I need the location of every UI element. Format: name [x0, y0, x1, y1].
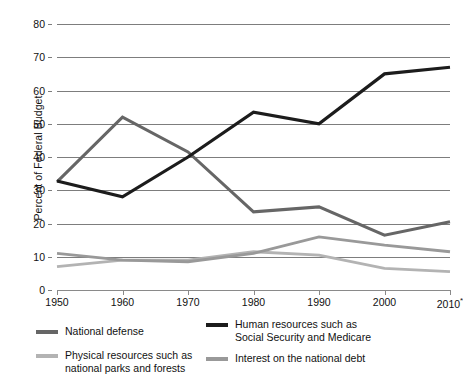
x-tick-mark-2010 — [450, 290, 451, 295]
y-tick-mark-50 — [48, 124, 52, 125]
x-tick-label-1990: 1990 — [307, 296, 330, 308]
y-tick-label-80: 80 — [33, 18, 45, 30]
series-line-0 — [57, 117, 450, 235]
y-tick-label-0: 0 — [39, 284, 45, 296]
y-tick-label-70: 70 — [33, 51, 45, 63]
y-tick-label-30: 30 — [33, 184, 45, 196]
y-tick-label-50: 50 — [33, 118, 45, 130]
legend-swatch-1 — [206, 323, 228, 327]
y-tick-mark-30 — [48, 190, 52, 191]
x-tick-label-1980: 1980 — [242, 296, 265, 308]
series-line-3 — [57, 237, 450, 262]
legend-label-1: Human resources such as Social Security … — [235, 318, 371, 343]
series-line-1 — [57, 67, 450, 197]
x-tick-label-1970: 1970 — [176, 296, 199, 308]
x-tick-mark-2000 — [385, 290, 386, 295]
chart-legend: National defenseHuman resources such as … — [36, 322, 456, 376]
x-tick-mark-1950 — [57, 290, 58, 295]
legend-entry-0: National defense — [36, 325, 144, 338]
legend-label-3: Interest on the national debt — [235, 352, 365, 365]
y-axis-tick-labels: 01020304050607080 — [0, 24, 52, 290]
x-tick-mark-1990 — [319, 290, 320, 295]
x-tick-label-1960: 1960 — [111, 296, 134, 308]
legend-entry-3: Interest on the national debt — [206, 352, 365, 365]
y-tick-label-20: 20 — [33, 218, 45, 230]
x-tick-label-1950: 1950 — [45, 296, 68, 308]
x-tick-mark-1960 — [123, 290, 124, 295]
legend-label-0: National defense — [65, 325, 144, 338]
series-lines — [57, 24, 450, 290]
legend-entry-1: Human resources such as Social Security … — [206, 318, 371, 343]
y-tick-label-10: 10 — [33, 251, 45, 263]
x-tick-label-2010: 2010* — [437, 296, 463, 310]
legend-entry-2: Physical resources such as national park… — [36, 349, 192, 374]
legend-swatch-2 — [36, 354, 58, 358]
y-tick-label-40: 40 — [33, 151, 45, 163]
y-tick-mark-80 — [48, 24, 52, 25]
plot-area — [57, 24, 450, 290]
y-tick-mark-10 — [48, 257, 52, 258]
x-tick-label-2000: 2000 — [373, 296, 396, 308]
y-tick-mark-0 — [48, 290, 52, 291]
y-tick-mark-70 — [48, 57, 52, 58]
legend-swatch-0 — [36, 330, 58, 334]
x-tick-mark-1980 — [254, 290, 255, 295]
y-tick-mark-60 — [48, 91, 52, 92]
y-tick-mark-40 — [48, 157, 52, 158]
y-tick-label-60: 60 — [33, 85, 45, 97]
legend-swatch-3 — [206, 357, 228, 361]
legend-label-2: Physical resources such as national park… — [65, 349, 192, 374]
y-tick-mark-20 — [48, 224, 52, 225]
x-tick-mark-1970 — [188, 290, 189, 295]
